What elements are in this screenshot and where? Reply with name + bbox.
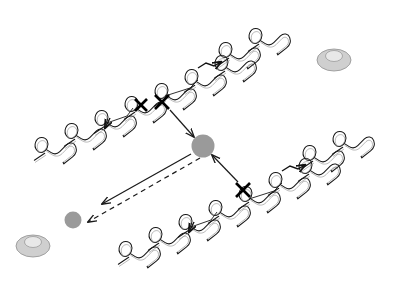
target-cargo-particle <box>65 212 82 229</box>
molecular-filament-diagram: X X X <box>0 0 393 288</box>
torus-top-right <box>317 49 351 71</box>
torus-bottom-left <box>16 235 50 257</box>
figure-root: X X X <box>0 0 393 288</box>
central-cargo-particle <box>192 135 215 158</box>
